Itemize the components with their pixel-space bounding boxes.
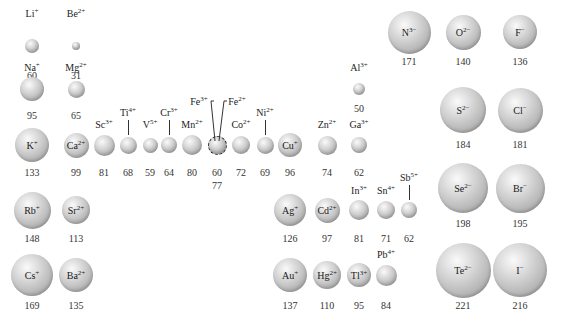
ion-symbol-hg: Hg2+ bbox=[317, 270, 337, 281]
ion-radius-zn: 74 bbox=[322, 167, 332, 178]
ion-radius-sc: 81 bbox=[99, 167, 109, 178]
ion-symbol-se: Se2− bbox=[454, 183, 471, 194]
ion-radius-fe3: 60 bbox=[212, 167, 222, 178]
ion-radius-hg: 110 bbox=[320, 300, 335, 311]
ion-radius-ti: 68 bbox=[123, 167, 133, 178]
ion-symbol-o: O2− bbox=[456, 27, 471, 38]
ion-radius-cs: 169 bbox=[25, 300, 40, 311]
ion-radius-n: 171 bbox=[402, 56, 417, 67]
ion-radius-k: 133 bbox=[25, 167, 40, 178]
ion-radius-f: 136 bbox=[513, 56, 528, 67]
ion-sphere-cs: Cs+ bbox=[11, 254, 53, 296]
ion-radius-sn: 71 bbox=[381, 233, 391, 244]
ion-symbol-br: Br− bbox=[513, 183, 527, 194]
ion-sphere-ti bbox=[120, 137, 137, 154]
ion-sphere-mg bbox=[68, 81, 85, 98]
ion-symbol-v: V5+ bbox=[143, 119, 158, 130]
ion-radius-rb: 148 bbox=[25, 233, 40, 244]
ion-symbol-li: Li+ bbox=[26, 8, 39, 19]
ion-radius-tl: 95 bbox=[354, 300, 364, 311]
ion-symbol-ti: Ti4+ bbox=[120, 107, 136, 118]
ion-radius-ca: 99 bbox=[71, 167, 81, 178]
ion-sphere-tl: Tl3+ bbox=[347, 263, 371, 287]
ion-radius-ni: 69 bbox=[260, 167, 270, 178]
ion-sphere-s: S2− bbox=[440, 87, 486, 133]
ion-symbol-be: Be2+ bbox=[67, 8, 86, 19]
ion-sphere-n: N3− bbox=[388, 11, 431, 54]
ion-radius-cl: 181 bbox=[513, 139, 528, 150]
ion-symbol-rb: Rb+ bbox=[24, 205, 40, 216]
ion-symbol-ba: Ba2+ bbox=[67, 270, 86, 281]
ion-symbol-ag: Ag+ bbox=[282, 205, 298, 216]
ion-symbol-co: Co2+ bbox=[231, 119, 250, 130]
ion-symbol-sr: Sr2+ bbox=[68, 205, 84, 216]
leader-line bbox=[265, 120, 266, 135]
ion-symbol-zn: Zn2+ bbox=[318, 119, 337, 130]
ion-sphere-rb: Rb+ bbox=[14, 192, 51, 229]
ion-symbol-sn: Sn4+ bbox=[377, 185, 395, 196]
ion-symbol-i: I− bbox=[516, 265, 523, 276]
ion-symbol-mg: Mg2+ bbox=[65, 62, 86, 73]
ion-radius-cu: 96 bbox=[285, 167, 295, 178]
ion-sphere-pb bbox=[376, 265, 397, 286]
ion-sphere-hg: Hg2+ bbox=[313, 261, 341, 289]
ion-symbol-cd: Cd2+ bbox=[317, 205, 336, 216]
ion-radius-ga: 62 bbox=[354, 167, 364, 178]
ion-radius-sb: 62 bbox=[404, 233, 414, 244]
ion-symbol-fe3: Fe3+ bbox=[190, 96, 207, 107]
ion-radius-s: 184 bbox=[456, 139, 471, 150]
ion-sphere-se: Se2− bbox=[438, 163, 488, 213]
ion-sphere-ba: Ba2+ bbox=[59, 258, 93, 292]
ion-radius-mg: 65 bbox=[71, 110, 81, 121]
ion-sphere-al bbox=[353, 83, 365, 95]
ion-sphere-mn bbox=[182, 135, 202, 155]
ion-radius-v: 59 bbox=[145, 167, 155, 178]
leader-line bbox=[409, 185, 410, 200]
ion-sphere-co bbox=[232, 136, 250, 154]
ion-symbol-sc: Sc3+ bbox=[95, 119, 112, 130]
ion-sphere-ni bbox=[257, 137, 274, 154]
ion-sphere-fe3 bbox=[208, 136, 227, 155]
ion-radius-al: 50 bbox=[354, 103, 364, 114]
ion-sphere-li bbox=[25, 39, 39, 53]
ion-symbol-n: N3− bbox=[402, 27, 417, 38]
ion-symbol-te: Te2− bbox=[454, 265, 471, 276]
ion-symbol-f: F− bbox=[515, 27, 525, 38]
ion-symbol-al: Al3+ bbox=[350, 62, 367, 73]
ion-radius-co: 72 bbox=[236, 167, 246, 178]
ion-symbol-na: Na+ bbox=[24, 62, 40, 73]
ion-radius-br: 195 bbox=[513, 218, 528, 229]
ion-sphere-sc bbox=[94, 135, 115, 156]
ion-sphere-ga bbox=[351, 137, 367, 153]
ion-sphere-o: O2− bbox=[446, 15, 481, 50]
ion-sphere-sn bbox=[377, 201, 395, 219]
ion-radius-o: 140 bbox=[456, 56, 471, 67]
ion-radius-se: 198 bbox=[456, 218, 471, 229]
ion-sphere-br: Br− bbox=[496, 164, 545, 213]
ion-radius-cr: 64 bbox=[164, 167, 174, 178]
ion-symbol-ni: Ni2+ bbox=[256, 107, 273, 118]
ion-sphere-ca: Ca2+ bbox=[64, 133, 89, 158]
ion-sphere-f: F− bbox=[503, 15, 537, 49]
ion-radius-sr: 113 bbox=[69, 233, 84, 244]
ion-sphere-v bbox=[143, 138, 158, 153]
ion-radius-cd: 97 bbox=[322, 233, 332, 244]
ion-symbol-cr: Cr3+ bbox=[160, 107, 177, 118]
ion-radius-ba: 135 bbox=[69, 300, 84, 311]
ion-symbol-sb: Sb5+ bbox=[400, 172, 418, 183]
ion-sphere-sr: Sr2+ bbox=[62, 196, 90, 224]
ion-symbol-pb: Pb4+ bbox=[377, 249, 395, 260]
leader-line bbox=[128, 120, 129, 135]
ion-sphere-be bbox=[72, 42, 80, 50]
ion-sphere-cl: Cl− bbox=[498, 88, 543, 133]
ion-symbol-ca: Ca2+ bbox=[67, 140, 86, 151]
ion-symbol-cu: Cu+ bbox=[282, 140, 298, 151]
ion-sphere-cd: Cd2+ bbox=[315, 198, 340, 223]
ion-symbol-au: Au+ bbox=[282, 270, 298, 281]
ion-symbol-in: In3+ bbox=[351, 185, 367, 196]
leader-line bbox=[169, 120, 170, 135]
ion-sphere-k: K+ bbox=[15, 128, 49, 162]
ion-sphere-i: I− bbox=[493, 243, 547, 297]
ion-radius-fe2: 77 bbox=[212, 180, 222, 191]
ion-sphere-in bbox=[349, 200, 369, 220]
